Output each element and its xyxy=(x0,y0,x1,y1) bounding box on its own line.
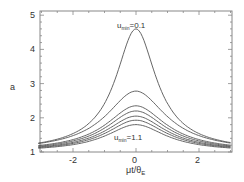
x-tick-label: 2 xyxy=(195,155,200,165)
y-tick-label: 4 xyxy=(30,44,35,54)
y-tick-label: 1 xyxy=(30,147,35,157)
curve-u-min-0-1 xyxy=(38,29,230,143)
y-tick-label: 2 xyxy=(30,113,35,123)
y-axis-label: a xyxy=(10,82,15,92)
x-tick-label: 0 xyxy=(132,155,137,165)
annotation-bottom: umin=1.1 xyxy=(114,133,143,143)
x-axis-label: μt/θE xyxy=(126,165,145,176)
x-tick-label: -2 xyxy=(69,155,77,165)
plot-frame xyxy=(40,11,232,152)
annotation-top: umin=0.1 xyxy=(117,21,146,31)
y-tick-label: 5 xyxy=(30,10,35,20)
chart: 12345 -202 a μt/θE umin=0.1 umin=1.1 xyxy=(0,0,244,182)
light-curves xyxy=(38,29,230,148)
y-tick-label: 3 xyxy=(30,79,35,89)
